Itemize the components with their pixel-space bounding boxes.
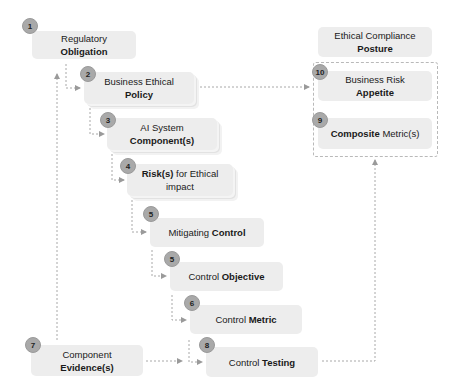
node-text: for Ethical bbox=[173, 168, 218, 179]
node-control-testing: Control Testing bbox=[206, 347, 318, 377]
badge-3: 3 bbox=[100, 112, 116, 128]
badge-1: 1 bbox=[22, 18, 38, 34]
node-text-bold: Risk(s) bbox=[142, 168, 174, 179]
node-text: Control bbox=[229, 357, 262, 368]
badge-5: 5 bbox=[143, 206, 159, 222]
node-text: Business Ethical bbox=[104, 76, 174, 87]
badge-10: 10 bbox=[312, 64, 328, 80]
node-text: Regulatory bbox=[61, 33, 107, 44]
node-text: Ethical Compliance bbox=[334, 30, 415, 41]
badge-7: 7 bbox=[25, 337, 41, 353]
node-text: Control bbox=[188, 271, 221, 282]
node-text-bold: Obligation bbox=[61, 46, 108, 57]
node-text-bold: Policy bbox=[125, 89, 153, 100]
badge-5b: 5 bbox=[164, 251, 180, 267]
node-text: Component bbox=[62, 349, 111, 360]
node-composite-metrics: Composite Metric(s) bbox=[318, 118, 432, 149]
node-text-bold: Testing bbox=[262, 357, 295, 368]
node-text-bold: Component(s) bbox=[130, 135, 194, 146]
node-text: AI System bbox=[140, 122, 183, 133]
node-ai-system-components: AI SystemComponent(s) bbox=[107, 118, 217, 150]
node-text-bold: Metric bbox=[249, 314, 277, 325]
node-text: Mitigating bbox=[168, 227, 211, 238]
node-text-bold: Evidence(s) bbox=[60, 362, 113, 373]
node-text-bold: Posture bbox=[357, 43, 392, 54]
node-text-bold: Appetite bbox=[356, 87, 394, 98]
badge-6: 6 bbox=[184, 295, 200, 311]
node-ethical-compliance-posture: Ethical CompliancePosture bbox=[318, 27, 432, 57]
node-text: Control bbox=[215, 314, 248, 325]
node-text-line2: impact bbox=[166, 181, 194, 192]
node-text-bold: Objective bbox=[222, 271, 265, 282]
node-text-bold: Control bbox=[212, 227, 246, 238]
badge-8: 8 bbox=[199, 337, 215, 353]
node-text-bold: Composite bbox=[331, 128, 380, 139]
node-risks-ethical-impact: Risk(s) for Ethicalimpact bbox=[127, 164, 233, 196]
node-control-metric: Control Metric bbox=[190, 305, 302, 334]
badge-2: 2 bbox=[80, 66, 96, 82]
node-text: Business Risk bbox=[345, 74, 405, 85]
badge-4: 4 bbox=[120, 158, 136, 174]
node-business-risk-appetite: Business RiskAppetite bbox=[318, 71, 432, 101]
node-text: Metric(s) bbox=[380, 128, 420, 139]
node-component-evidences: Component Evidence(s) bbox=[31, 345, 143, 376]
node-mitigating-control: Mitigating Control bbox=[150, 218, 264, 247]
badge-9: 9 bbox=[312, 112, 328, 128]
node-control-objective: Control Objective bbox=[170, 262, 283, 291]
node-regulatory-obligation: Regulatory Obligation bbox=[32, 31, 136, 59]
node-business-ethical-policy: Business EthicalPolicy bbox=[84, 72, 194, 104]
